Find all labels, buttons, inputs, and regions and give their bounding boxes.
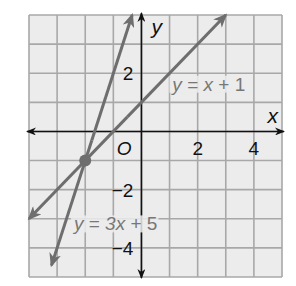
x-axis-label: x <box>267 104 280 127</box>
x-tick-label: 4 <box>249 138 260 159</box>
equation-token: = <box>83 213 99 234</box>
x-tick-label: 2 <box>192 138 203 159</box>
equation-label: y = x + 1 <box>170 74 245 95</box>
plot-points <box>79 155 91 167</box>
equation-token: 5 <box>142 213 158 234</box>
equation-token: = <box>182 74 198 95</box>
y-tick-label: −4 <box>112 238 134 259</box>
intersection-point <box>79 155 91 167</box>
equation-token: 1 <box>229 74 245 95</box>
coordinate-plane: 242−2−4Oxyy = x + 1y = 3x + 5 <box>0 0 296 286</box>
equation-label: y = 3x + 5 <box>72 213 157 234</box>
y-axis-label: y <box>149 15 163 38</box>
equation-token: + <box>125 213 141 234</box>
origin-label: O <box>117 138 132 159</box>
y-tick-label: 2 <box>123 63 134 84</box>
equation-token: + <box>213 74 229 95</box>
grid-fill <box>29 15 282 277</box>
grid-background <box>29 15 282 277</box>
equation-token: 3x <box>100 213 127 234</box>
y-tick-label: −2 <box>112 180 134 201</box>
